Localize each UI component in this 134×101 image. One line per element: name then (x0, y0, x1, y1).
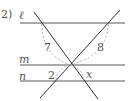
angle-label-x: x (86, 69, 92, 80)
line-n-label: n (19, 71, 26, 82)
angle-label-2: 2 (48, 70, 55, 81)
line-m-label: m (19, 54, 29, 65)
line-l-label: ℓ (19, 10, 24, 21)
angle-label-7: 7 (44, 42, 51, 53)
transversal-1 (34, 12, 98, 99)
problem-number: 2) (1, 9, 12, 20)
angle-label-8: 8 (97, 42, 104, 53)
